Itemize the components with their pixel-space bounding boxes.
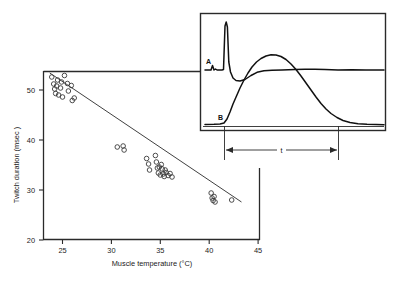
data-point	[115, 145, 120, 150]
x-tick-label-35: 35	[156, 246, 164, 255]
y-axis-title: Twitch duration (msec )	[12, 127, 21, 203]
data-point	[229, 198, 234, 203]
marker-arrow-left	[226, 147, 233, 153]
y-tick-label-50: 50	[27, 86, 35, 95]
marker-arrow-right	[330, 147, 337, 153]
data-point	[58, 86, 63, 91]
data-point	[62, 73, 67, 78]
x-axis-ticks	[63, 240, 259, 244]
inset-panel: A B	[201, 14, 386, 131]
x-tick-label-40: 40	[205, 246, 213, 255]
x-tick-label-30: 30	[107, 246, 115, 255]
trace-a-label: A	[206, 58, 211, 65]
y-tick-label-20: 20	[27, 236, 35, 245]
figure-svg: 50 40 30 20 25 30 35 40 45 Muscle temper…	[0, 0, 400, 282]
y-axis-ticks	[39, 90, 44, 240]
data-point	[147, 168, 152, 173]
duration-marker-label: t	[281, 147, 283, 154]
data-point	[146, 162, 151, 167]
data-point	[154, 160, 159, 165]
figure-panel: 50 40 30 20 25 30 35 40 45 Muscle temper…	[0, 0, 400, 282]
data-point	[60, 95, 65, 100]
data-point	[49, 75, 54, 80]
trace-b-label: B	[218, 114, 223, 121]
data-point	[144, 156, 149, 161]
y-tick-label-40: 40	[27, 136, 35, 145]
y-tick-label-30: 30	[27, 186, 35, 195]
x-tick-label-25: 25	[58, 246, 66, 255]
data-point	[153, 153, 158, 158]
data-point	[66, 89, 71, 94]
x-axis-title: Muscle temperature (°C)	[112, 259, 193, 268]
x-tick-label-45: 45	[254, 246, 262, 255]
